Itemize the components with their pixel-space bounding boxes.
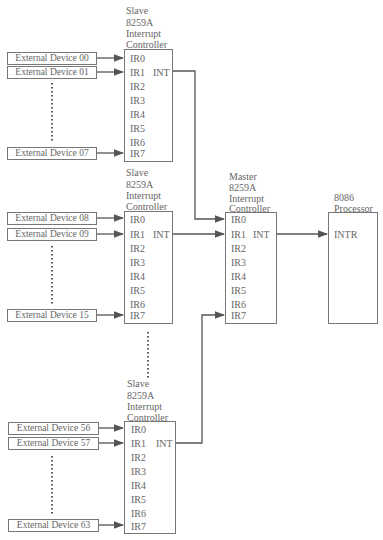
pin-int: INT bbox=[153, 230, 170, 240]
pin-ir6: IR6 bbox=[130, 300, 145, 310]
pin-intr: INTR bbox=[334, 230, 357, 240]
external-device-56: External Device 56 bbox=[8, 422, 99, 435]
pin-ir5: IR5 bbox=[231, 286, 246, 296]
external-device-57: External Device 57 bbox=[8, 437, 99, 450]
pin-ir3: IR3 bbox=[231, 258, 246, 268]
master-box: IR0 IR1 IR2 IR3 IR4 IR5 IR6 IR7 INT bbox=[225, 212, 277, 324]
pin-ir4: IR4 bbox=[130, 272, 145, 282]
slave-2-title-line-1: Slave bbox=[126, 167, 148, 178]
slave-2-title-line-2: 8259A bbox=[126, 179, 153, 190]
pin-ir5: IR5 bbox=[131, 495, 146, 505]
slave-3-title-line-2: 8259A bbox=[127, 390, 154, 401]
pin-ir4: IR4 bbox=[131, 481, 146, 491]
external-device-09: External Device 09 bbox=[7, 228, 97, 241]
slave-3-box: IR0 IR1 IR2 IR3 IR4 IR5 IR6 IR7 INT bbox=[124, 421, 176, 534]
pin-ir3: IR3 bbox=[131, 467, 146, 477]
slave-1-title-line-1: Slave bbox=[126, 5, 148, 16]
external-device-00: External Device 00 bbox=[7, 52, 97, 65]
pin-ir2: IR2 bbox=[130, 82, 145, 92]
slave-1-box: IR0 IR1 IR2 IR3 IR4 IR5 IR6 IR7 INT bbox=[124, 49, 173, 162]
pin-ir6: IR6 bbox=[231, 300, 246, 310]
pin-ir7: IR7 bbox=[131, 522, 146, 532]
pin-ir2: IR2 bbox=[231, 244, 246, 254]
processor-box: INTR bbox=[328, 212, 378, 324]
pin-ir4: IR4 bbox=[231, 272, 246, 282]
slave-3-title-line-1: Slave bbox=[127, 378, 149, 389]
master-title-line-1: Master bbox=[229, 171, 257, 182]
connection-wires bbox=[0, 0, 383, 540]
pin-ir4: IR4 bbox=[130, 110, 145, 120]
pin-ir7: IR7 bbox=[130, 311, 145, 321]
pin-ir0: IR0 bbox=[130, 215, 145, 225]
pin-ir1: IR1 bbox=[131, 439, 146, 449]
pin-ir0: IR0 bbox=[231, 215, 246, 225]
pin-ir1: IR1 bbox=[130, 230, 145, 240]
external-device-07: External Device 07 bbox=[7, 147, 97, 160]
pin-ir5: IR5 bbox=[130, 286, 145, 296]
master-title-line-2: 8259A bbox=[229, 182, 256, 193]
external-device-63: External Device 63 bbox=[8, 519, 99, 532]
pin-ir6: IR6 bbox=[131, 509, 146, 519]
processor-title-line-1: 8086 bbox=[334, 192, 354, 203]
slave-2-box: IR0 IR1 IR2 IR3 IR4 IR5 IR6 IR7 INT bbox=[124, 211, 173, 324]
pin-ir6: IR6 bbox=[130, 138, 145, 148]
pin-ir7: IR7 bbox=[130, 149, 145, 159]
pin-ir1: IR1 bbox=[130, 68, 145, 78]
external-device-08: External Device 08 bbox=[7, 212, 97, 225]
pin-ir3: IR3 bbox=[130, 258, 145, 268]
pin-ir7: IR7 bbox=[231, 311, 246, 321]
external-device-01: External Device 01 bbox=[7, 66, 97, 79]
pin-ir5: IR5 bbox=[130, 124, 145, 134]
pin-ir3: IR3 bbox=[130, 96, 145, 106]
pin-ir2: IR2 bbox=[130, 244, 145, 254]
external-device-15: External Device 15 bbox=[7, 309, 97, 322]
slave-2-title-line-3: Interrupt bbox=[126, 190, 161, 201]
pin-ir2: IR2 bbox=[131, 453, 146, 463]
pin-ir1: IR1 bbox=[231, 230, 246, 240]
pin-ir0: IR0 bbox=[130, 54, 145, 64]
pin-int: INT bbox=[156, 439, 173, 449]
slave-1-title-line-3: Interrupt bbox=[126, 28, 161, 39]
slave-3-title-line-3: Interrupt bbox=[127, 401, 162, 412]
pin-int: INT bbox=[153, 68, 170, 78]
pin-ir0: IR0 bbox=[131, 425, 146, 435]
slave-1-title-line-2: 8259A bbox=[126, 17, 153, 28]
pin-int: INT bbox=[253, 230, 270, 240]
